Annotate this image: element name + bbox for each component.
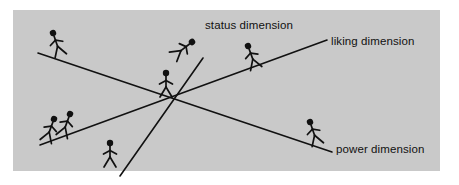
- stick-figure-upper-center: [169, 35, 198, 62]
- stick-figure-head-icon: [49, 29, 57, 37]
- stick-figure-upper-left: [46, 28, 67, 58]
- stick-figure-upper-right: [241, 41, 263, 71]
- axis-line-power: [38, 53, 332, 152]
- diagram-canvas: status dimension liking dimension power …: [0, 0, 459, 185]
- power-dimension-label: power dimension: [336, 143, 424, 155]
- stick-figure-head-icon: [66, 110, 74, 118]
- stick-figure-head-icon: [306, 118, 314, 126]
- stick-figure-lower-left-b: [56, 109, 78, 139]
- axis-line-liking: [40, 40, 327, 145]
- stick-figure-lower-right: [303, 117, 324, 147]
- status-dimension-label: status dimension: [205, 19, 293, 31]
- stick-figure-head-icon: [163, 70, 169, 76]
- stick-figure-head-icon: [244, 42, 252, 50]
- liking-dimension-label: liking dimension: [331, 35, 414, 47]
- stick-figure-bottom-center: [104, 140, 117, 167]
- axis-line-status: [120, 58, 203, 176]
- stick-figure-head-icon: [50, 115, 58, 123]
- stick-figure-head-icon: [107, 140, 113, 146]
- stick-figure-center: [160, 70, 173, 97]
